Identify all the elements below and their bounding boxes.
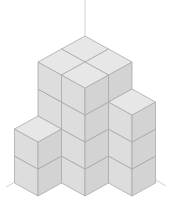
cube-diagram [0, 0, 182, 206]
left-ground-axis [6, 182, 15, 187]
isometric-cube-stack [0, 0, 182, 206]
cubes [15, 36, 156, 196]
right-ground-axis [156, 180, 166, 186]
